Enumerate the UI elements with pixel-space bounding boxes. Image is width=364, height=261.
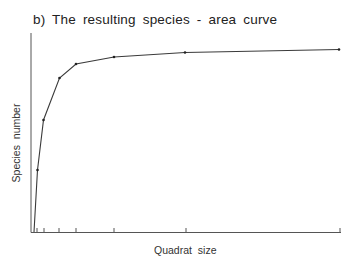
species-area-plot (0, 0, 364, 261)
data-point (113, 56, 116, 59)
data-point-markers (36, 48, 340, 171)
x-axis-ticks (37, 228, 340, 232)
x-axis-label: Quadrat size (154, 244, 217, 256)
data-point (75, 63, 78, 66)
data-point (184, 51, 187, 54)
y-axis-label: Species number (10, 104, 22, 183)
data-point (338, 48, 341, 51)
data-point (42, 119, 45, 122)
data-point (36, 169, 39, 172)
data-point (58, 77, 61, 80)
species-area-curve (34, 50, 339, 233)
axes (31, 33, 341, 233)
